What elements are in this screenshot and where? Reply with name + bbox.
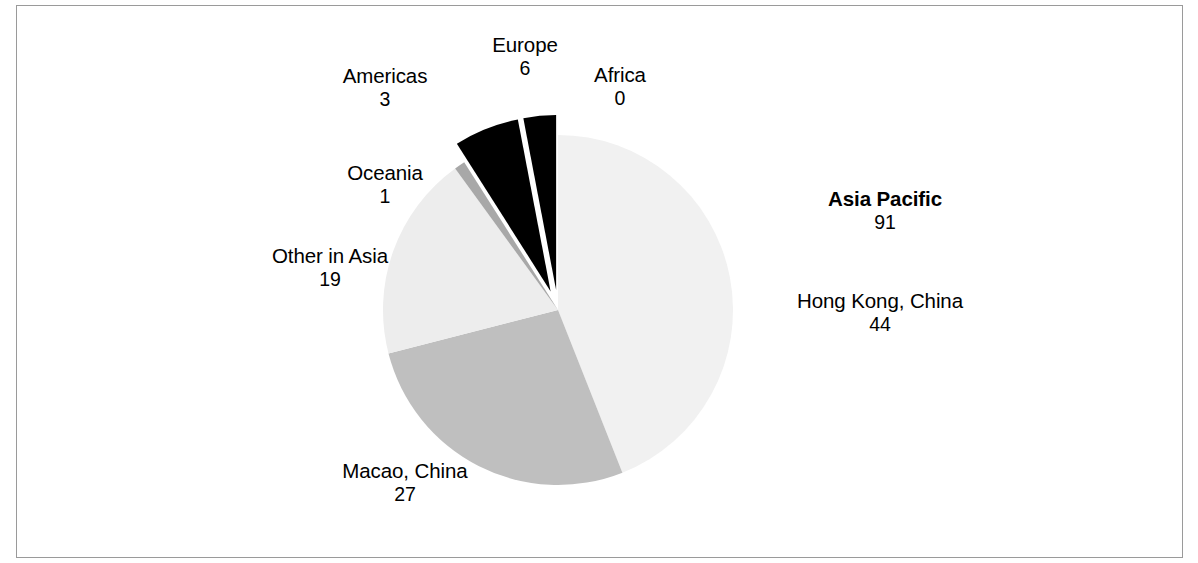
slice-label-africa-name: Africa — [520, 63, 720, 87]
slice-label-macao-value: 27 — [275, 483, 535, 506]
group-label-asia-pacific: Asia Pacific 91 — [770, 187, 1000, 234]
slice-label-other-in-asia: Other in Asia 19 — [210, 244, 450, 291]
slice-label-oceania-name: Oceania — [285, 161, 485, 185]
slice-label-africa: Africa 0 — [520, 63, 720, 110]
group-label-asia-pacific-value: 91 — [770, 211, 1000, 234]
slice-label-europe-name: Europe — [425, 33, 625, 57]
slice-label-oceania: Oceania 1 — [285, 161, 485, 208]
slice-label-macao-name: Macao, China — [275, 459, 535, 483]
slice-label-americas-value: 3 — [285, 88, 485, 111]
chart-figure: Americas 3 Europe 6 Africa 0 Oceania 1 O… — [0, 0, 1198, 563]
slice-label-other-in-asia-value: 19 — [210, 268, 450, 291]
slice-label-hong-kong-name: Hong Kong, China — [750, 289, 1010, 313]
slice-label-oceania-value: 1 — [285, 185, 485, 208]
slice-label-macao: Macao, China 27 — [275, 459, 535, 506]
slice-label-other-in-asia-name: Other in Asia — [210, 244, 450, 268]
group-label-asia-pacific-name: Asia Pacific — [770, 187, 1000, 211]
slice-label-hong-kong-value: 44 — [750, 313, 1010, 336]
slice-label-africa-value: 0 — [520, 87, 720, 110]
slice-label-hong-kong: Hong Kong, China 44 — [750, 289, 1010, 336]
